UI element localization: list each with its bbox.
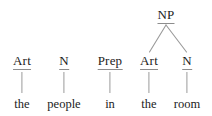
node-n-2: N [182, 54, 192, 70]
word-room: room [174, 98, 200, 111]
branch-np-to-n [166, 25, 187, 52]
node-art-2: Art [140, 54, 158, 70]
syntax-tree-diagram: NP Art N Prep Art N the people in the ro… [0, 0, 212, 116]
node-n-1-label: N [59, 54, 69, 70]
word-people: people [47, 98, 80, 111]
stem-n-2 [186, 72, 187, 93]
node-n-1: N [59, 54, 69, 70]
node-prep-label: Prep [98, 54, 123, 70]
node-np: NP [157, 8, 174, 24]
stem-art-1 [21, 72, 22, 93]
node-n-2-label: N [182, 54, 192, 70]
stem-prep [109, 72, 110, 93]
stem-art-2 [148, 72, 149, 93]
word-in: in [105, 98, 115, 111]
word-the-1: the [14, 98, 29, 111]
node-art-1-label: Art [13, 54, 31, 70]
branch-np-to-art [150, 25, 167, 52]
word-the-2: the [141, 98, 156, 111]
node-art-2-label: Art [140, 54, 158, 70]
stem-n-1 [63, 72, 64, 93]
node-prep: Prep [98, 54, 123, 70]
node-np-label: NP [157, 8, 174, 24]
node-art-1: Art [13, 54, 31, 70]
